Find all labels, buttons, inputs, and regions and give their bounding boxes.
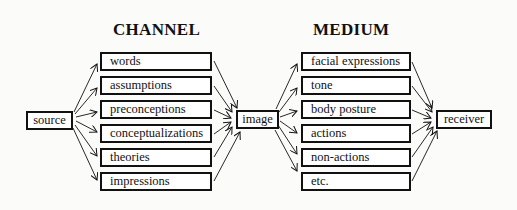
medium-item-label: body posture (311, 103, 376, 116)
source-node: source (26, 111, 73, 130)
medium-item-label: actions (311, 127, 346, 140)
image-node: image (236, 110, 279, 129)
channel-item: theories (100, 148, 212, 167)
medium-item: tone (301, 76, 411, 95)
channel-item-label: impressions (110, 175, 170, 188)
receiver-label: receiver (444, 113, 484, 126)
medium-item-label: etc. (311, 175, 329, 188)
medium-item-label: non-actions (311, 151, 369, 164)
channel-item-label: words (110, 55, 141, 68)
medium-item: actions (301, 124, 411, 143)
medium-item: etc. (301, 172, 411, 191)
medium-item-label: tone (311, 79, 333, 92)
receiver-node: receiver (436, 110, 492, 129)
channel-item: assumptions (100, 76, 212, 95)
medium-item: body posture (301, 100, 411, 119)
channel-item-label: conceptualizations (110, 127, 203, 140)
source-label: source (33, 114, 66, 127)
flow-arrows (0, 0, 517, 210)
medium-item: facial expressions (301, 52, 411, 71)
channel-item: conceptualizations (100, 124, 212, 143)
channel-item: words (100, 52, 212, 71)
image-label: image (242, 113, 273, 126)
channel-item-label: theories (110, 151, 150, 164)
medium-item: non-actions (301, 148, 411, 167)
channel-item: preconceptions (100, 100, 212, 119)
channel-item-label: preconceptions (110, 103, 186, 116)
channel-item-label: assumptions (110, 79, 172, 92)
medium-item-label: facial expressions (311, 55, 400, 68)
channel-item: impressions (100, 172, 212, 191)
